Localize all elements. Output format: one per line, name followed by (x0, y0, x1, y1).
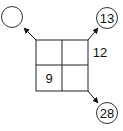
grid-side-label: 12 (91, 46, 109, 59)
arrow-to-top-left (24, 28, 36, 40)
circle-top-left (2, 7, 23, 28)
circle-bottom-right-value: 28 (96, 107, 118, 120)
arrow-to-top-right (88, 28, 98, 40)
arrow-to-bottom-right (88, 91, 98, 103)
circle-top-right-value: 13 (96, 12, 118, 25)
cell-bottom-left-value: 9 (36, 72, 62, 85)
